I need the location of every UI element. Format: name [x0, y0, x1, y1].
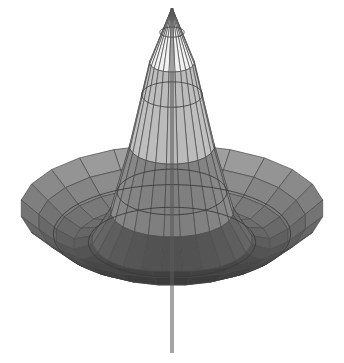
- vertical-axis-layer: [171, 8, 173, 353]
- surface-plot-canvas: [0, 0, 344, 363]
- figure-root: [0, 0, 344, 363]
